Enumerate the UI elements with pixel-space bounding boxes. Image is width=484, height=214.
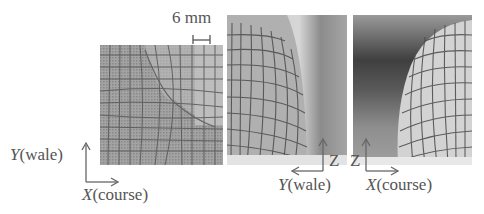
axis-z-label-panel2: Z [329,152,339,169]
axis-y-desc: (wale) [287,175,330,194]
axis-x-var: X [366,175,376,194]
axis-y-label-panel2: Y(wale) [278,176,331,193]
axis-x-label-panel3: X(course) [366,176,432,193]
axis-z-label-panel3: Z [350,152,360,169]
axis-x-desc: (course) [376,175,432,194]
